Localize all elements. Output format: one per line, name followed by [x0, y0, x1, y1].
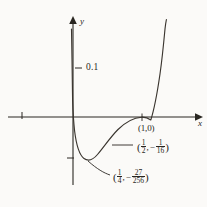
- plot-canvas: [0, 0, 207, 207]
- y-tick-label-0-1: 0.1: [86, 63, 98, 73]
- annotation-point-half: (12,−116): [137, 139, 169, 156]
- y-axis-arrowhead: [69, 16, 77, 24]
- annotation-point-quarter: (14,−27256): [113, 169, 149, 186]
- math-graph-figure: y x 0.1 (1,0) (12,−116) (14,−27256): [0, 0, 207, 207]
- annotation-x-intercept: (1,0): [138, 124, 154, 133]
- close-paren: ): [145, 171, 149, 183]
- minus-sign: −: [125, 172, 132, 182]
- y-fraction-27-256: 27256: [132, 169, 145, 186]
- leader-line-point-quarter: [88, 161, 110, 175]
- x-axis-label: x: [198, 119, 202, 128]
- y-fraction-sixteenth: 116: [156, 139, 166, 156]
- close-paren: ): [165, 141, 169, 153]
- x-fraction-half: 12: [141, 139, 147, 156]
- x-fraction-quarter: 14: [117, 169, 123, 186]
- minus-sign: −: [149, 142, 156, 152]
- y-axis-label: y: [80, 17, 84, 26]
